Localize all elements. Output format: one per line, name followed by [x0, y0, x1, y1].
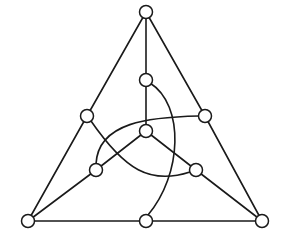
- edge-inner-right-bottom-right: [196, 170, 262, 221]
- node-inner-left: [90, 164, 103, 177]
- node-center: [140, 125, 153, 138]
- node-top: [140, 6, 153, 19]
- edge-top-right-mid: [146, 12, 205, 116]
- node-bottom-right: [256, 215, 269, 228]
- curved-edge-right-mid-inner-left: [96, 116, 199, 164]
- nodes: [22, 6, 269, 228]
- node-inner-right: [190, 164, 203, 177]
- edge-center-inner-right: [146, 131, 196, 170]
- edge-inner-left-bottom-left: [28, 170, 96, 221]
- edge-right-mid-bottom-right: [205, 116, 262, 221]
- node-upper-center: [140, 74, 153, 87]
- node-bottom-left: [22, 215, 35, 228]
- fano-plane-diagram: [0, 0, 290, 249]
- curved-edge-upper-center-bottom-mid: [148, 83, 175, 215]
- edge-left-mid-bottom-left: [28, 116, 87, 221]
- straight-edges: [28, 12, 262, 221]
- curved-edges: [91, 83, 199, 215]
- node-left-mid: [81, 110, 94, 123]
- node-right-mid: [199, 110, 212, 123]
- edge-top-left-mid: [87, 12, 146, 116]
- node-bottom-mid: [140, 215, 153, 228]
